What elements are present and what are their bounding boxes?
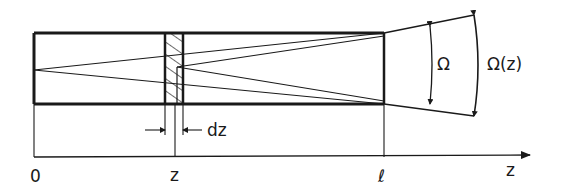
label-length: ℓ (377, 166, 385, 186)
slice-dz (165, 33, 183, 104)
label-z-position: z (170, 165, 179, 185)
z-axis (34, 155, 530, 157)
label-omega: Ω (437, 54, 450, 74)
label-dz: dz (207, 120, 227, 140)
label-axis-z: z (506, 160, 515, 180)
fan-lines (384, 15, 474, 116)
omega-arc (430, 26, 432, 104)
label-origin: 0 (30, 166, 41, 186)
rod-diagram: 0 z ℓ z dz Ω Ω(z) (0, 0, 564, 187)
omega-z-arc (474, 15, 478, 116)
label-omega-z: Ω(z) (487, 54, 522, 74)
